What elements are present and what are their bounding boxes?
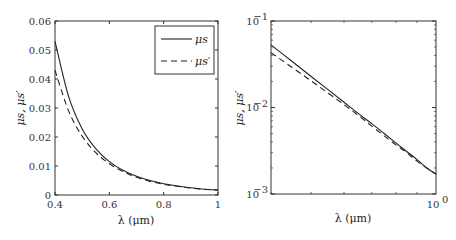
right-y-axis-label: μs, μs′ <box>233 90 246 126</box>
y-tick-exponent: −2 <box>253 98 268 109</box>
legend: μs μs′ <box>155 26 214 74</box>
y-tick-label: 0.04 <box>29 74 51 85</box>
left-chart-panel: 00.010.020.030.040.050.06 0.40.60.81 μs … <box>14 16 221 228</box>
x-tick-label: 0.8 <box>156 199 172 210</box>
right-x-axis-label: λ (μm) <box>335 212 372 225</box>
left-x-axis-label: λ (μm) <box>118 214 155 227</box>
y-tick-label: 0.02 <box>29 132 51 143</box>
y-tick-label: 0.05 <box>29 45 51 56</box>
mu-s-prime-log-curve <box>271 53 436 174</box>
y-tick-label: 0.03 <box>29 103 51 114</box>
x-tick-label: 0.6 <box>101 199 117 210</box>
mu-s-log-curve <box>271 45 436 174</box>
y-tick-exponent: −1 <box>253 11 268 22</box>
x-tick-label: 10 <box>427 199 440 210</box>
left-y-axis-label: μs, μs′ <box>14 90 27 126</box>
right-chart-panel: 10−310−210−1 100 λ (μm) μs, μs′ <box>233 11 448 225</box>
x-tick-label: 1 <box>215 199 221 210</box>
right-y-axis-ticks: 10−310−210−1 <box>246 11 436 200</box>
x-tick-exponent: 0 <box>442 194 448 205</box>
y-tick-label: 0.01 <box>29 161 51 172</box>
legend-label-mu-s: μs <box>195 33 208 46</box>
figure: 00.010.020.030.040.050.06 0.40.60.81 μs … <box>0 0 456 240</box>
x-tick-label: 0.4 <box>47 199 63 210</box>
y-tick-exponent: −3 <box>253 184 268 195</box>
right-plot-frame <box>271 21 436 194</box>
mu-s-prime-curve <box>55 70 218 190</box>
legend-label-mu-s-prime: μs′ <box>195 55 211 68</box>
y-tick-label: 0.06 <box>29 16 51 27</box>
right-x-axis-ticks: 100 <box>271 21 448 210</box>
